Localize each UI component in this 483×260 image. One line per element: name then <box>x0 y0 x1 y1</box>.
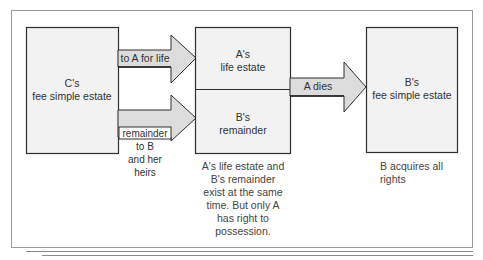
arrow-to-b-label: remainder to B and her heirs <box>118 127 172 179</box>
middle-caption-line6: possession. <box>190 225 296 238</box>
middle-caption-line3: exist at the same <box>190 186 296 199</box>
life-estate-line2: life estate <box>195 61 291 74</box>
life-estate-label: A's life estate <box>195 48 291 74</box>
middle-caption-line2: B's remainder <box>190 173 296 186</box>
grantor-label-line1: C's <box>26 77 118 90</box>
final-line1: B's <box>366 76 458 89</box>
middle-caption-line5: has right to <box>190 212 296 225</box>
remainder-line2: remainder <box>195 124 291 137</box>
arrow-to-a-label: to A for life <box>118 52 172 65</box>
arrow-to-b-label-line4: heirs <box>118 166 172 179</box>
right-caption: B acquires all rights <box>380 160 470 186</box>
middle-caption-line1: A's life estate and <box>190 160 296 173</box>
arrow-to-b-label-line2: to B <box>118 140 172 153</box>
right-caption-line1: B acquires all <box>380 160 470 173</box>
arrow-a-dies-label: A dies <box>290 80 346 93</box>
grantor-label-line2: fee simple estate <box>26 90 118 103</box>
arrow-to-b-label-line1: remainder <box>118 127 172 140</box>
middle-caption-line4: time. But only A <box>190 199 296 212</box>
grantor-label: C's fee simple estate <box>26 77 118 103</box>
final-line2: fee simple estate <box>366 89 458 102</box>
middle-caption: A's life estate and B's remainder exist … <box>190 160 296 238</box>
remainder-label: B's remainder <box>195 111 291 137</box>
arrow-to-b-label-line3: and her <box>118 153 172 166</box>
life-estate-line1: A's <box>195 48 291 61</box>
final-label: B's fee simple estate <box>366 76 458 102</box>
remainder-line1: B's <box>195 111 291 124</box>
right-caption-line2: rights <box>380 173 470 186</box>
